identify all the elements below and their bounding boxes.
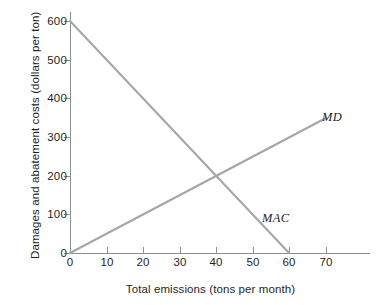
series-label-md: MD: [322, 110, 342, 125]
series-label-mac: MAC: [262, 211, 289, 226]
y-axis-title: Damages and abatement costs (dollars per…: [29, 19, 41, 259]
series-line-md: [70, 118, 326, 253]
x-axis-title: Total emissions (tons per month): [0, 283, 391, 295]
series-line-mac: [70, 21, 289, 253]
series-layer: [0, 0, 391, 305]
chart-figure: 0 100 200 300 400 500 600 0 10 20 30 40 …: [0, 0, 391, 305]
plot-area: 0 100 200 300 400 500 600 0 10 20 30 40 …: [0, 0, 391, 305]
